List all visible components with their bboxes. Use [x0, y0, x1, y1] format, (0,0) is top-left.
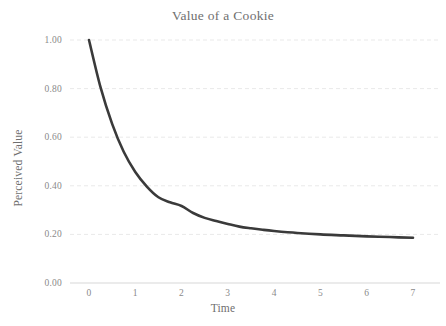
x-axis-tick-label: 0: [77, 288, 101, 298]
data-line-group: [89, 40, 413, 238]
x-axis-tick-label: 6: [355, 288, 379, 298]
plot-area: [0, 0, 446, 326]
data-line: [89, 40, 413, 238]
x-axis-tick-label: 5: [308, 288, 332, 298]
x-axis-label: Time: [0, 302, 446, 314]
y-axis-label: Perceived Value: [12, 98, 24, 238]
y-axis-tick-label: 0.00: [16, 278, 62, 288]
x-axis-tick-label: 3: [216, 288, 240, 298]
x-axis-tick-label: 2: [170, 288, 194, 298]
plot-svg: [0, 0, 446, 326]
x-axis-tick-label: 1: [123, 288, 147, 298]
x-axis-tick-label: 7: [401, 288, 425, 298]
chart-container: Value of a Cookie 0.000.200.400.600.801.…: [0, 0, 446, 326]
y-axis-tick-label: 1.00: [16, 35, 62, 45]
y-axis-tick-label: 0.80: [16, 84, 62, 94]
gridlines-group: [70, 40, 440, 234]
x-axis-tick-label: 4: [262, 288, 286, 298]
